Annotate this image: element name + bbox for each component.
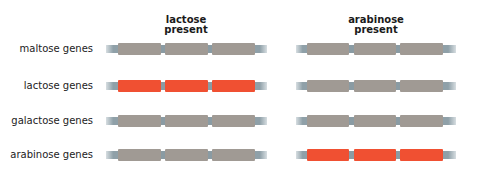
operon-galactose-arabinose-present [296,114,461,128]
gene-block-3-expressed [400,149,443,161]
terminator-stub [255,82,267,90]
gene-block-3-off [400,80,443,92]
promoter-stub [296,45,307,53]
gene-block-1-expressed [118,80,161,92]
column-header-lactose-present: lactose present [136,15,236,35]
row-label-arabinose: arabinose genes [0,149,93,161]
terminator-stub [255,117,267,125]
row-label-galactose: galactose genes [0,115,93,127]
gene-block-2-off [165,115,208,127]
gene-block-2-off [165,43,208,55]
terminator-stub [443,117,456,125]
gene-block-2-off [354,43,396,55]
gene-block-2-expressed [165,80,208,92]
gene-block-2-expressed [354,149,396,161]
gene-block-3-expressed [212,80,255,92]
gene-block-1-off [118,115,161,127]
gene-block-1-off [307,115,349,127]
gene-block-2-off [354,115,396,127]
promoter-stub [296,151,307,159]
gene-block-1-off [118,43,161,55]
terminator-stub [255,151,267,159]
terminator-stub [443,45,456,53]
column-header-arabinose-present: arabinose present [326,15,426,35]
promoter-stub [296,82,307,90]
operon-lactose-arabinose-present [296,79,461,93]
promoter-stub [106,45,118,53]
operon-lactose-lactose-present [106,79,271,93]
promoter-stub [296,117,307,125]
gene-block-3-off [212,149,255,161]
gene-block-3-off [212,115,255,127]
gene-block-2-off [354,80,396,92]
operon-maltose-arabinose-present [296,42,461,56]
gene-block-1-expressed [307,149,349,161]
column-header-line2: present [136,25,236,35]
promoter-stub [106,117,118,125]
gene-block-3-off [400,115,443,127]
gene-block-3-off [212,43,255,55]
operon-galactose-lactose-present [106,114,271,128]
gene-block-1-off [307,80,349,92]
gene-block-1-off [118,149,161,161]
terminator-stub [443,151,456,159]
row-label-maltose: maltose genes [0,43,93,55]
row-label-lactose: lactose genes [0,80,93,92]
gene-block-2-off [165,149,208,161]
gene-block-1-off [307,43,349,55]
terminator-stub [255,45,267,53]
operon-arabinose-lactose-present [106,148,271,162]
column-header-line2: present [326,25,426,35]
promoter-stub [106,151,118,159]
operon-maltose-lactose-present [106,42,271,56]
terminator-stub [443,82,456,90]
operon-arabinose-arabinose-present [296,148,461,162]
promoter-stub [106,82,118,90]
gene-block-3-off [400,43,443,55]
